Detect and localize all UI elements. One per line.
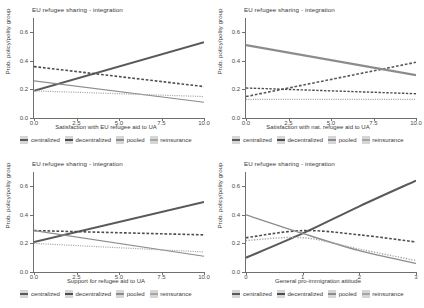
legend-key-decentralized [277, 136, 285, 144]
legend-item-centralized[interactable]: centralized [232, 136, 272, 144]
legend-key-reinsurance [362, 136, 370, 144]
legend: centralizeddecentralizedpooledreinsuranc… [0, 290, 212, 298]
legend-label: decentralized [287, 291, 323, 297]
legend-item-decentralized[interactable]: decentralized [65, 136, 111, 144]
legend-label: centralized [243, 291, 272, 297]
legend-label: centralized [31, 291, 60, 297]
legend-label: pooled [127, 291, 145, 297]
series-line-reinsurance [246, 237, 416, 260]
y-tick-mark [30, 272, 33, 273]
legend-label: reinsurance [372, 137, 403, 143]
legend-item-reinsurance[interactable]: reinsurance [362, 136, 404, 144]
y-tick-mark [242, 118, 245, 119]
legend-key-centralized [232, 136, 240, 144]
legend-label: reinsurance [160, 137, 191, 143]
legend-key-pooled [328, 136, 336, 144]
y-tick-mark [242, 272, 245, 273]
series-line-pooled [246, 45, 416, 75]
y-tick-mark [242, 32, 245, 33]
y-tick-label: 0.2 [200, 86, 240, 92]
legend-label: decentralized [287, 137, 323, 143]
legend-item-decentralized[interactable]: decentralized [277, 290, 323, 298]
x-axis-label: Satisfaction with nat. refugee aid to UA [212, 124, 424, 130]
panel-grid: EU refugee sharing - integration Prob. p… [0, 0, 424, 308]
y-tick-mark [242, 243, 245, 244]
y-tick-label: 0.4 [200, 58, 240, 64]
panel-title: EU refugee sharing - integration [32, 6, 123, 13]
panel-title: EU refugee sharing - integration [244, 6, 335, 13]
legend-item-reinsurance[interactable]: reinsurance [150, 136, 192, 144]
legend: centralizeddecentralizedpooledreinsuranc… [212, 290, 424, 298]
y-tick-label: 0.6 [200, 183, 240, 189]
legend-label: decentralized [75, 291, 111, 297]
series-line-centralized [246, 181, 416, 258]
y-tick-label: 0.2 [0, 86, 28, 92]
legend-item-centralized[interactable]: centralized [20, 136, 60, 144]
y-tick-label: 0.4 [200, 212, 240, 218]
legend-label: pooled [127, 137, 145, 143]
legend-item-decentralized[interactable]: decentralized [277, 136, 323, 144]
chart-panel-top-left: EU refugee sharing - integration Prob. p… [0, 0, 212, 154]
y-tick-mark [242, 61, 245, 62]
y-axis-line [245, 18, 246, 118]
y-tick-label: 0.6 [0, 183, 28, 189]
legend-item-pooled[interactable]: pooled [116, 136, 145, 144]
legend-item-pooled[interactable]: pooled [328, 136, 357, 144]
y-tick-mark [30, 186, 33, 187]
legend-item-pooled[interactable]: pooled [116, 290, 145, 298]
y-axis-line [33, 18, 34, 118]
y-axis-label: Prob. policy/polity group [216, 153, 223, 239]
plot-area [246, 172, 416, 272]
legend-item-decentralized[interactable]: decentralized [65, 290, 111, 298]
series-line-centralized [246, 62, 416, 96]
legend-key-pooled [328, 290, 336, 298]
y-tick-mark [30, 243, 33, 244]
legend-key-pooled [116, 136, 124, 144]
legend-key-centralized [232, 290, 240, 298]
plot-area [34, 172, 204, 272]
legend-label: decentralized [75, 137, 111, 143]
panel-title: EU refugee sharing - integration [244, 160, 335, 167]
legend: centralizeddecentralizedpooledreinsuranc… [212, 136, 424, 144]
y-tick-mark [30, 61, 33, 62]
series-line-decentralized [246, 231, 416, 242]
y-tick-label: 0.2 [0, 240, 28, 246]
legend-item-reinsurance[interactable]: reinsurance [362, 290, 404, 298]
y-axis-line [245, 172, 246, 272]
legend-item-reinsurance[interactable]: reinsurance [150, 290, 192, 298]
legend-key-decentralized [277, 290, 285, 298]
x-axis-label: Satisfaction with EU refugee aid to UA [0, 124, 212, 130]
y-axis-line [33, 172, 34, 272]
plot-area [246, 18, 416, 118]
legend-item-centralized[interactable]: centralized [232, 290, 272, 298]
y-tick-mark [242, 186, 245, 187]
legend-key-reinsurance [150, 290, 158, 298]
legend-key-pooled [116, 290, 124, 298]
y-axis-label: Prob. policy/polity group [216, 0, 223, 85]
legend-label: reinsurance [160, 291, 191, 297]
y-tick-label: 0.2 [200, 240, 240, 246]
y-axis-label: Prob. policy/polity group [4, 0, 11, 85]
legend-label: reinsurance [372, 291, 403, 297]
legend-label: pooled [339, 137, 357, 143]
y-tick-label: 0.6 [200, 29, 240, 35]
y-tick-label: 0.6 [0, 29, 28, 35]
series-line-reinsurance [34, 243, 204, 252]
panel-title: EU refugee sharing - integration [32, 160, 123, 167]
y-axis-label: Prob. policy/polity group [4, 153, 11, 239]
y-tick-mark [30, 118, 33, 119]
legend-label: centralized [31, 137, 60, 143]
legend-key-reinsurance [362, 290, 370, 298]
y-tick-mark [242, 89, 245, 90]
legend-key-centralized [20, 290, 28, 298]
x-axis-label: Support for refugee aid to UA [0, 278, 212, 284]
plot-area [34, 18, 204, 118]
legend-key-reinsurance [150, 136, 158, 144]
y-tick-label: 0.4 [0, 58, 28, 64]
y-tick-mark [30, 89, 33, 90]
series-line-centralized [34, 202, 204, 242]
legend-item-pooled[interactable]: pooled [328, 290, 357, 298]
legend-item-centralized[interactable]: centralized [20, 290, 60, 298]
x-axis-line [245, 272, 416, 273]
y-tick-label: 0.4 [0, 212, 28, 218]
